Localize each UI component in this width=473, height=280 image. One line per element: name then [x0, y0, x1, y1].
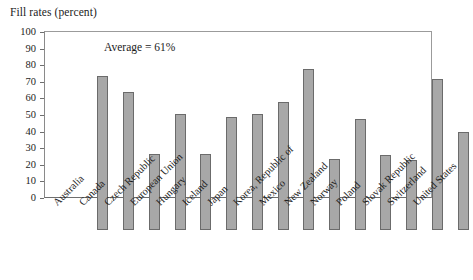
y-axis-tick-mark [40, 198, 44, 199]
y-axis-tick-label: 100 [20, 25, 36, 38]
chart-title: Fill rates (percent) [10, 6, 97, 18]
y-axis-tick-label: 80 [26, 58, 37, 71]
bar [432, 79, 443, 230]
y-axis-tick-label: 70 [26, 75, 37, 88]
y-axis-tick-label: 60 [26, 91, 37, 104]
y-axis-tick-label: 10 [26, 174, 37, 187]
y-axis-tick-label: 50 [26, 108, 37, 121]
x-axis-labels: AustraliaCanadaCzech RepublicEuropean Un… [45, 200, 431, 280]
y-axis-tick-label: 90 [26, 42, 37, 55]
plot-area [44, 31, 432, 198]
bar [458, 132, 469, 230]
y-axis-tick-label: 40 [26, 125, 37, 138]
y-axis-tick-label: 20 [26, 158, 37, 171]
average-annotation: Average = 61% [104, 41, 175, 53]
y-axis: 0102030405060708090100 [0, 31, 44, 198]
y-axis-tick-label: 30 [26, 141, 37, 154]
y-axis-tick-label: 0 [31, 191, 36, 204]
